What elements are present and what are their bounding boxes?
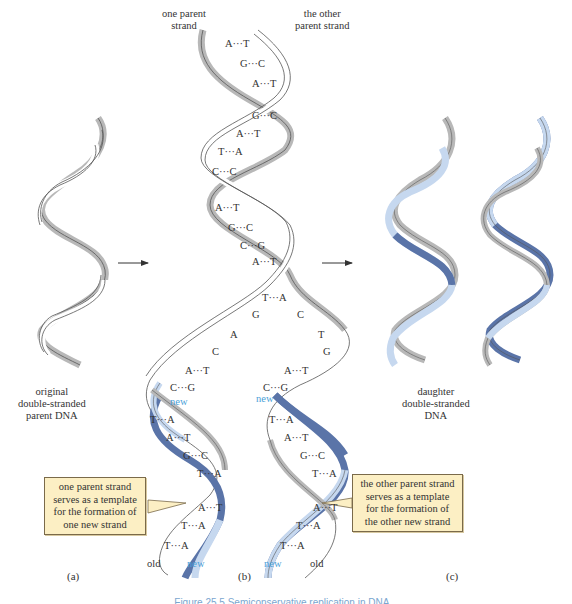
base-pair: T···A: [296, 520, 321, 531]
base-pair: A···T: [166, 432, 191, 443]
base-pair: G···C: [240, 58, 265, 69]
base-pair: T···A: [269, 414, 294, 425]
base-pair: C···G: [170, 382, 195, 393]
label-line: the other: [295, 8, 350, 20]
base-pair: G···C: [183, 450, 208, 461]
label-line: parent strand: [295, 20, 350, 32]
original-dna-label: original double-stranded parent DNA: [18, 386, 86, 422]
callout-line: for the formation of: [49, 506, 141, 519]
label-line: double-stranded: [402, 398, 470, 410]
base-pair: A···T: [252, 78, 277, 89]
base-pair: A···T: [236, 128, 261, 139]
label-line: double-stranded: [18, 398, 86, 410]
callout-line: one new strand: [49, 519, 141, 532]
new-strand-label: new: [170, 396, 188, 407]
base-pair: T···A: [150, 414, 175, 425]
daughter-helix-2: [484, 118, 550, 365]
base-pair: T···A: [280, 540, 305, 551]
base-pair: A···T: [284, 432, 309, 443]
base-pair: C···G: [263, 382, 288, 393]
base-pair: T···A: [164, 540, 189, 551]
callout-right: the other parent strand serves as a temp…: [352, 474, 463, 532]
panel-label-c: (c): [446, 570, 458, 582]
base-pair: T···A: [181, 520, 206, 531]
base-pair: A···T: [198, 502, 223, 513]
label-line: daughter: [402, 386, 470, 398]
base-pair: A···T: [225, 38, 250, 49]
one-parent-strand-label: one parent strand: [162, 8, 206, 32]
base-pair: A···T: [313, 502, 338, 513]
callout-line: serves as a template: [357, 491, 458, 504]
old-strand-label: old: [310, 558, 323, 569]
base-pair: A···T: [185, 365, 210, 376]
base-unpaired: G: [323, 346, 331, 357]
base-pair: C···G: [240, 240, 265, 251]
panel-label-a: (a): [67, 570, 79, 582]
panel-label-b: (b): [238, 570, 251, 582]
label-line: one parent: [162, 8, 206, 20]
new-strand-label: new: [256, 393, 274, 404]
callout-line: for the formation of: [357, 503, 458, 516]
label-line: original: [18, 386, 86, 398]
base-unpaired: T: [318, 329, 324, 340]
base-pair: C···C: [212, 166, 237, 177]
label-line: parent DNA: [18, 410, 86, 422]
callout-line: the other parent strand: [357, 478, 458, 491]
old-strand-label: old: [147, 558, 160, 569]
other-parent-strand-label: the other parent strand: [295, 8, 350, 32]
callout-left: one parent strand serves as a template f…: [44, 477, 146, 535]
base-pair: G···C: [300, 450, 325, 461]
base-pair: G···C: [252, 110, 277, 121]
base-pair: T···A: [218, 146, 243, 157]
base-pair: T···A: [262, 292, 287, 303]
new-strand-label: new: [264, 558, 282, 569]
callout-line: the other new strand: [357, 516, 458, 529]
base-pair: A···T: [284, 365, 309, 376]
base-unpaired: G: [252, 309, 260, 320]
base-pair: A···T: [252, 256, 277, 267]
callout-pointer-left: [148, 500, 186, 513]
base-pair: T···A: [312, 468, 337, 479]
base-pair: T···A: [197, 468, 222, 479]
label-line: DNA: [402, 410, 470, 422]
daughter-helix-1: [389, 118, 455, 365]
base-unpaired: C: [212, 346, 219, 357]
parent-helix: [38, 118, 105, 365]
callout-line: serves as a template: [49, 494, 141, 507]
figure-caption: Figure 25.5 Semiconservative replication…: [0, 596, 572, 604]
base-unpaired: C: [297, 309, 304, 320]
callout-line: one parent strand: [49, 481, 141, 494]
daughter-dna-label: daughter double-stranded DNA: [402, 386, 470, 422]
base-pair: A···T: [215, 202, 240, 213]
label-line: strand: [162, 20, 206, 32]
new-strand-label: new: [187, 558, 205, 569]
base-pair: G···C: [228, 222, 253, 233]
base-unpaired: A: [230, 329, 238, 340]
